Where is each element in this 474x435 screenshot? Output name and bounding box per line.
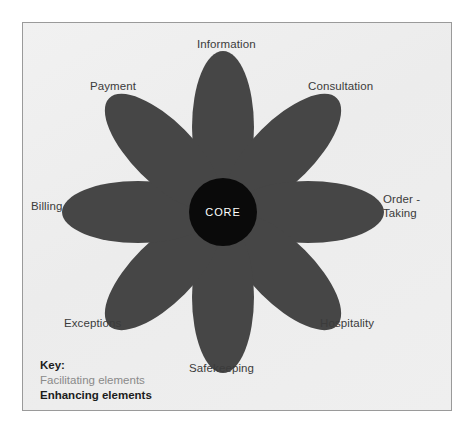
petal-label-consultation: Consultation — [308, 79, 373, 93]
diagram-canvas: CORE Information Consultation Order - Ta… — [0, 0, 474, 435]
petal-label-payment: Payment — [90, 79, 136, 93]
petal-label-exceptions: Exceptions — [64, 316, 121, 330]
legend-facilitating-label: Facilitating elements — [40, 373, 220, 388]
petal-label-information: Information — [197, 37, 256, 51]
legend-title: Key: — [40, 358, 220, 373]
petal-label-billing: Billing — [31, 199, 62, 213]
legend-enhancing-label: Enhancing elements — [40, 388, 220, 403]
petal-label-order-taking: Order - Taking — [383, 192, 443, 220]
petal-label-order-taking-line2: Taking — [383, 207, 417, 219]
petal-label-hospitality: Hospitality — [320, 316, 374, 330]
petal-label-order-taking-line1: Order - — [383, 193, 420, 205]
legend-key: Key: Facilitating elements Enhancing ele… — [40, 358, 220, 403]
